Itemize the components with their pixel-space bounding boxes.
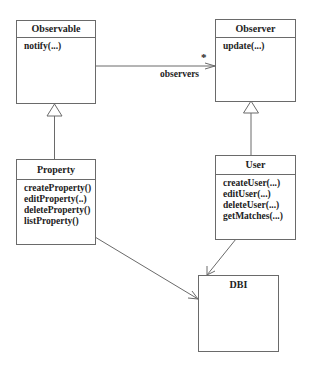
operation: deleteProperty() bbox=[24, 205, 95, 216]
class-user[interactable]: User createUser(...) editUser(...) delet… bbox=[215, 155, 296, 240]
operation: createUser(...) bbox=[223, 178, 295, 189]
class-observable[interactable]: Observable notify(...) bbox=[16, 20, 96, 104]
class-observer-name: Observer bbox=[216, 20, 295, 38]
class-property[interactable]: Property createProperty() editProperty(.… bbox=[16, 159, 96, 245]
generalization-property-observable bbox=[47, 104, 62, 159]
class-property-name: Property bbox=[17, 160, 95, 180]
operation: listProperty() bbox=[24, 216, 95, 227]
operation: getMatches(...) bbox=[223, 211, 295, 222]
operation: editUser(...) bbox=[223, 189, 295, 200]
class-observer-operations: update(...) bbox=[216, 38, 295, 52]
dependency-user-dbi bbox=[207, 239, 236, 275]
role-label-observers: observers bbox=[160, 69, 199, 79]
operation: notify(...) bbox=[24, 41, 95, 52]
class-observable-name: Observable bbox=[17, 21, 95, 38]
class-observer[interactable]: Observer update(...) bbox=[215, 19, 296, 102]
class-dbi[interactable]: DBI bbox=[198, 275, 279, 352]
class-user-name: User bbox=[216, 156, 295, 175]
class-observable-operations: notify(...) bbox=[17, 38, 95, 52]
class-user-operations: createUser(...) editUser(...) deleteUser… bbox=[216, 175, 295, 222]
multiplicity-label: * bbox=[201, 51, 207, 63]
dependency-property-dbi bbox=[95, 237, 198, 299]
generalization-user-observer bbox=[244, 101, 259, 155]
operation: createProperty() bbox=[24, 183, 95, 194]
class-dbi-name: DBI bbox=[199, 279, 278, 290]
operation: deleteUser(...) bbox=[223, 200, 295, 211]
operation: update(...) bbox=[223, 41, 295, 52]
class-property-operations: createProperty() editProperty(..) delete… bbox=[17, 180, 95, 227]
operation: editProperty(..) bbox=[24, 194, 95, 205]
